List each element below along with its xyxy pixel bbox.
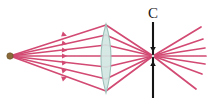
ray-diagram-canvas: C <box>0 0 207 106</box>
optics-ray-diagram-figure: C <box>0 0 207 106</box>
point-source-dot <box>7 53 13 59</box>
screen-label-c: C <box>148 5 158 21</box>
image-convergence-point <box>152 55 155 58</box>
